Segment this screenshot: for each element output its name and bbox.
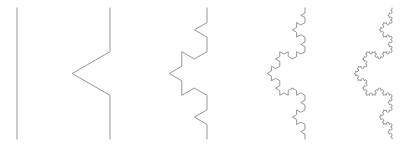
koch-curve-svg: [0, 0, 418, 147]
koch-figure: [0, 0, 418, 147]
figure-background: [0, 0, 418, 147]
